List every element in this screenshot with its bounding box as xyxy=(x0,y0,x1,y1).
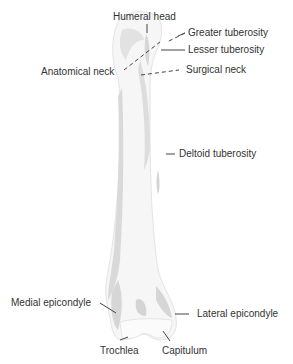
humerus-diagram: Humeral head Greater tuberosity Lesser t… xyxy=(0,0,293,364)
label-medial-epicondyle: Medial epicondyle xyxy=(11,297,91,309)
articular-surface xyxy=(120,319,172,339)
label-capitulum: Capitulum xyxy=(162,345,207,357)
deltoid-shading xyxy=(157,170,160,194)
leader-greater-tuberosity-solid xyxy=(178,33,185,36)
label-trochlea: Trochlea xyxy=(100,345,139,357)
label-lesser-tuberosity: Lesser tuberosity xyxy=(188,44,264,56)
label-greater-tuberosity: Greater tuberosity xyxy=(188,27,268,39)
label-lateral-epicondyle: Lateral epicondyle xyxy=(197,308,278,320)
label-humeral-head: Humeral head xyxy=(113,11,176,23)
label-surgical-neck: Surgical neck xyxy=(186,64,246,76)
label-deltoid-tuberosity: Deltoid tuberosity xyxy=(179,148,256,160)
label-anatomical-neck: Anatomical neck xyxy=(41,66,114,78)
